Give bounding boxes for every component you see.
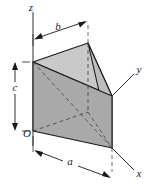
origin-label: O [23, 127, 31, 139]
z-axis-label: z [28, 1, 34, 13]
dimension-b-arrow-right [78, 21, 87, 28]
figure-container: b c a z y x O [0, 0, 149, 185]
prism-diagram: b c a z y x O [0, 0, 149, 185]
dimension-b-label: b [55, 20, 61, 32]
dimension-a-label: a [67, 155, 73, 167]
dimension-b-arrow-left [34, 33, 43, 40]
dimension-c-label: c [13, 81, 18, 93]
dimension-a-arrow-left [34, 150, 43, 157]
dimension-c-arrow-top [12, 62, 18, 70]
dimension-a-arrow-right [102, 171, 111, 178]
y-axis-line [112, 74, 134, 96]
dimension-c-arrow-bottom [12, 123, 18, 131]
x-axis-line [112, 148, 134, 170]
x-axis-label: x [136, 167, 142, 179]
y-axis-label: y [136, 63, 142, 75]
